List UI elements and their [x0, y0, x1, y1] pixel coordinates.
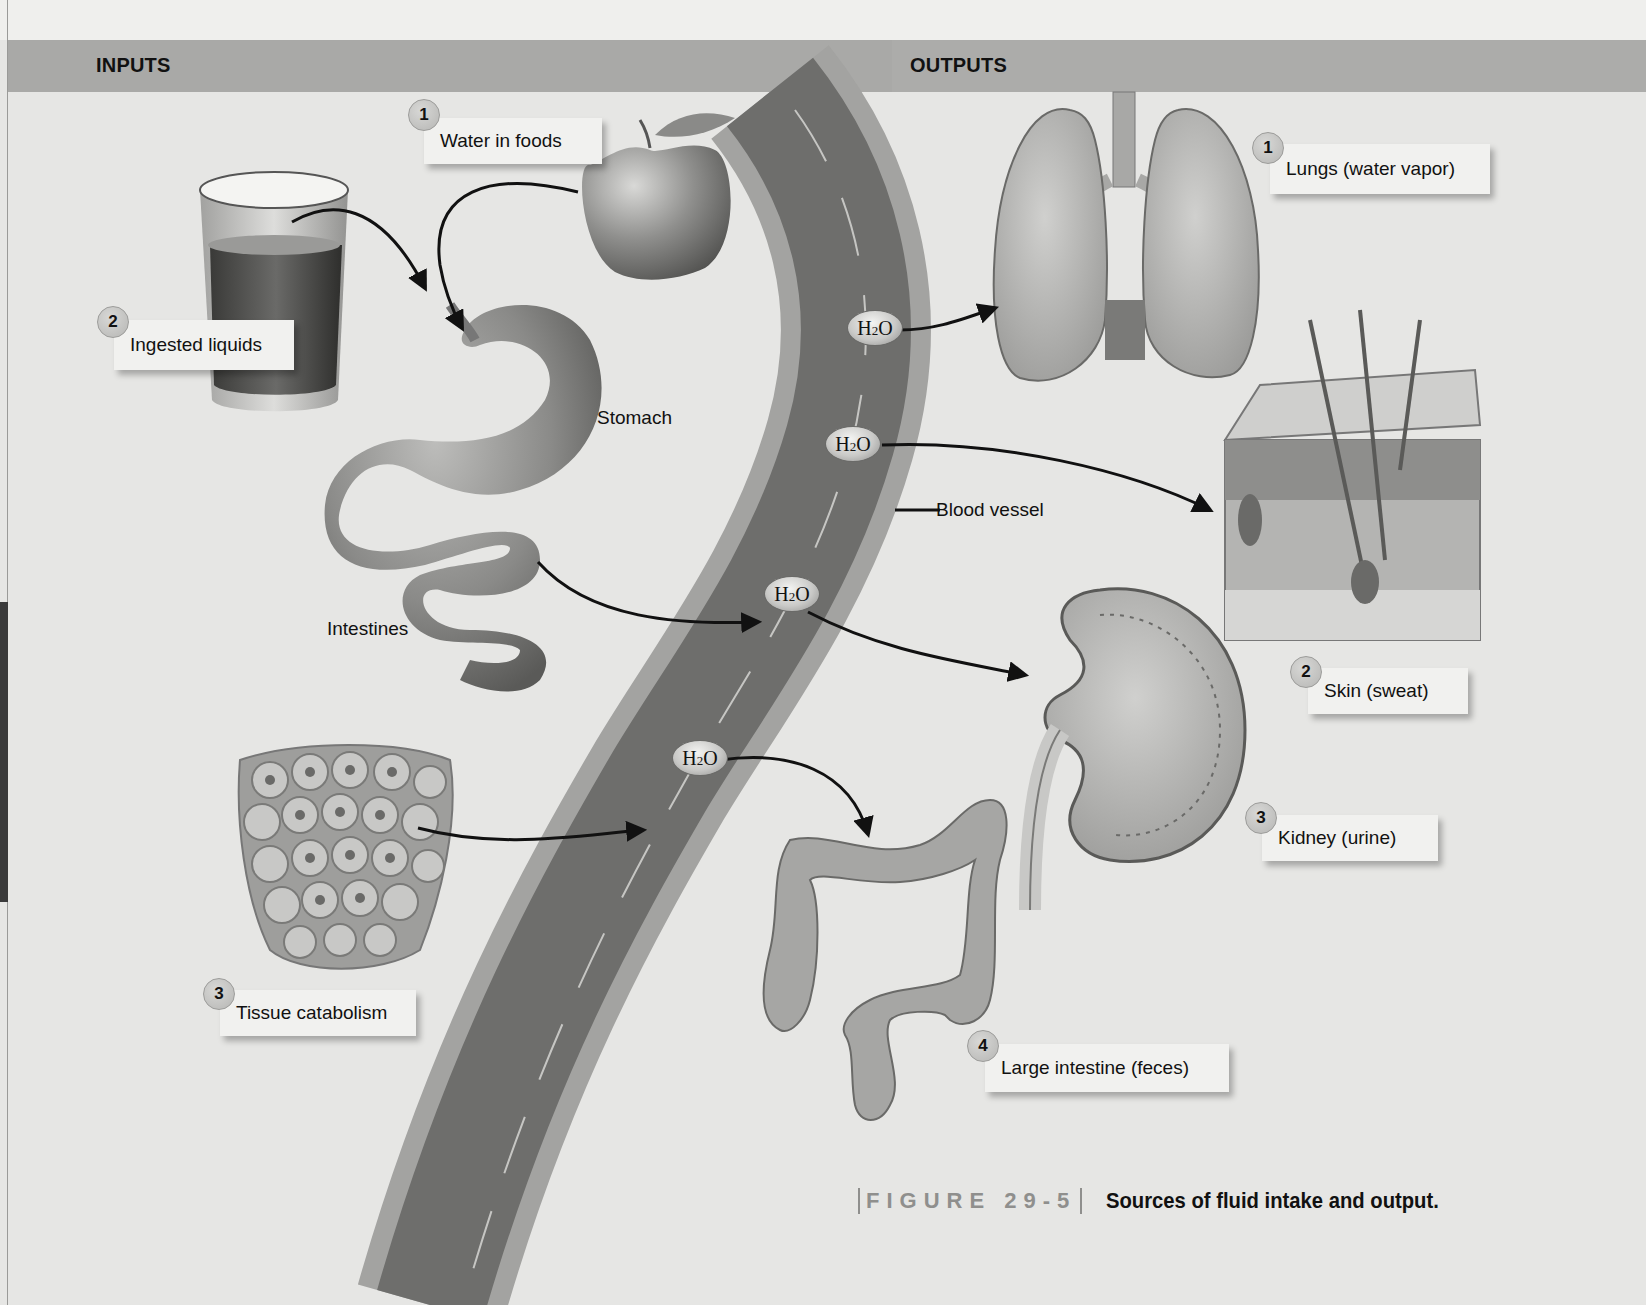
input-callout-tissue-catabolism: Tissue catabolism — [220, 990, 416, 1036]
h2o-h: H — [682, 747, 696, 770]
h2o-subscript: 2 — [872, 323, 879, 339]
h2o-h: H — [835, 433, 849, 456]
h2o-o: O — [703, 747, 717, 770]
h2o-molecule-icon: H2O — [825, 426, 881, 462]
h2o-subscript: 2 — [789, 589, 796, 605]
h2o-h: H — [774, 583, 788, 606]
h2o-subscript: 2 — [850, 439, 857, 455]
output-callout-skin: Skin (sweat) — [1308, 668, 1468, 714]
skin-cross-section-icon — [1225, 310, 1480, 640]
figure-number: FIGURE 29-5 — [858, 1188, 1082, 1214]
number-badge: 4 — [967, 1030, 999, 1062]
callout-label: Water in foods — [424, 130, 578, 152]
kidney-icon — [1030, 589, 1245, 910]
intestines-label: Intestines — [327, 618, 408, 640]
diagram-artwork — [0, 0, 1646, 1305]
number-badge: 1 — [1252, 132, 1284, 164]
h2o-molecule-icon: H2O — [847, 310, 903, 346]
h2o-h: H — [857, 317, 871, 340]
output-callout-lungs: Lungs (water vapor) — [1270, 144, 1490, 194]
callout-label: Skin (sweat) — [1308, 680, 1445, 702]
output-callout-large-intestine: Large intestine (feces) — [985, 1044, 1229, 1092]
number-badge: 3 — [1245, 802, 1277, 834]
lungs-icon — [994, 92, 1259, 381]
h2o-o: O — [795, 583, 809, 606]
h2o-o: O — [856, 433, 870, 456]
callout-label: Large intestine (feces) — [985, 1057, 1205, 1079]
callout-label: Ingested liquids — [114, 334, 278, 356]
callout-label: Tissue catabolism — [220, 1002, 403, 1024]
h2o-molecule-icon: H2O — [672, 740, 728, 776]
tissue-cells-icon — [239, 745, 453, 969]
number-badge: 2 — [1290, 656, 1322, 688]
glass-of-water-icon — [200, 172, 348, 411]
h2o-o: O — [878, 317, 892, 340]
input-callout-water-in-foods: Water in foods — [424, 118, 602, 164]
number-badge: 1 — [408, 99, 440, 131]
output-callout-kidney: Kidney (urine) — [1262, 815, 1438, 861]
h2o-molecule-icon: H2O — [764, 576, 820, 612]
callout-label: Lungs (water vapor) — [1270, 158, 1471, 180]
figure-title: Sources of fluid intake and output. — [1106, 1188, 1439, 1214]
h2o-subscript: 2 — [697, 753, 704, 769]
stomach-label: Stomach — [597, 407, 672, 429]
input-callout-ingested-liquids: Ingested liquids — [114, 320, 294, 370]
number-badge: 3 — [203, 978, 235, 1010]
number-badge: 2 — [97, 306, 129, 338]
figure-caption: FIGURE 29-5 Sources of fluid intake and … — [858, 1188, 1468, 1214]
large-intestine-icon — [763, 800, 1006, 1120]
blood-vessel-label: Blood vessel — [936, 499, 1044, 521]
callout-label: Kidney (urine) — [1262, 827, 1412, 849]
